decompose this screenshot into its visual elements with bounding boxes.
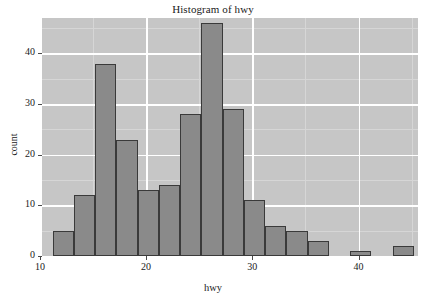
- histogram-bar: [308, 241, 329, 256]
- chart-title: Histogram of hwy: [0, 3, 426, 15]
- histogram-bar: [95, 64, 116, 256]
- x-axis-tick: [146, 256, 147, 260]
- y-axis-tick: [38, 155, 42, 156]
- y-axis-tick-label: 30: [2, 97, 35, 108]
- y-axis-tick-label: 40: [2, 46, 35, 57]
- histogram-bar: [53, 231, 74, 256]
- histogram-bar: [201, 23, 222, 256]
- x-axis-tick-label: 10: [20, 261, 60, 272]
- histogram-bar: [265, 226, 286, 256]
- histogram-bar: [393, 246, 414, 256]
- x-axis-tick-label: 20: [126, 261, 166, 272]
- y-axis-tick: [38, 104, 42, 105]
- y-axis-tick: [38, 205, 42, 206]
- x-axis-tick: [252, 256, 253, 260]
- x-axis-tick-label: 40: [339, 261, 379, 272]
- histogram-bar: [180, 114, 201, 256]
- y-axis-tick: [38, 256, 42, 257]
- histogram-bar: [350, 251, 371, 256]
- y-axis-tick: [38, 53, 42, 54]
- histogram-bar: [159, 185, 180, 256]
- histogram-bar: [74, 195, 95, 256]
- histogram-bar: [116, 140, 137, 256]
- y-axis-title: count: [8, 115, 19, 175]
- gridline-major-y: [42, 53, 418, 55]
- x-axis-tick: [359, 256, 360, 260]
- histogram-bar: [286, 231, 307, 256]
- plot-panel: [42, 18, 418, 256]
- y-axis-tick-label: 10: [2, 198, 35, 209]
- histogram-bar: [138, 190, 159, 256]
- y-axis-tick-label: 0: [2, 249, 35, 260]
- gridline-minor-y: [42, 28, 418, 29]
- histogram-chart: Histogram of hwy 10203040010203040 hwy c…: [0, 0, 426, 304]
- histogram-bar: [244, 200, 265, 256]
- histogram-bar: [223, 109, 244, 256]
- x-axis-title: hwy: [0, 282, 426, 293]
- x-axis-tick-label: 30: [232, 261, 272, 272]
